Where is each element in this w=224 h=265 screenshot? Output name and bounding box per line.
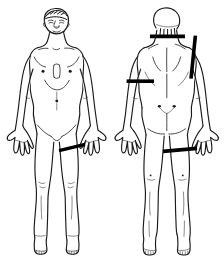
groin-outline xyxy=(51,136,62,140)
left-calf-line xyxy=(150,192,151,215)
suprasternal-notch xyxy=(53,48,60,49)
xiphoid-arc xyxy=(54,77,59,78)
posterior-head-group xyxy=(154,8,180,36)
body-diagram-panel: Human body anatomical outline diagram An… xyxy=(0,0,224,265)
sternum-left-line xyxy=(53,65,54,77)
right-calf-line xyxy=(183,192,184,215)
left-foot-outline xyxy=(34,238,47,254)
nape-hair-5 xyxy=(174,28,175,35)
back-left-leg-outer xyxy=(143,135,146,239)
right-knee-outline xyxy=(68,182,74,184)
back-left-hip-outline xyxy=(142,108,146,135)
left-scapula-line xyxy=(153,57,161,71)
left-nipple xyxy=(42,70,45,73)
back-right-hand-outline xyxy=(192,126,218,155)
anterior-torso-group xyxy=(29,48,83,110)
neck-right-outline xyxy=(64,32,76,47)
left-knee-outline xyxy=(39,182,45,184)
posterior-left-thigh-marker-bar xyxy=(163,148,197,151)
right-nipple xyxy=(69,70,72,73)
back-right-foot-outline xyxy=(177,234,190,255)
right-gluteal-fold xyxy=(169,129,186,134)
sacral-triangle xyxy=(159,107,174,113)
right-clavicle xyxy=(65,48,74,49)
anterior-figure-svg xyxy=(0,0,112,265)
sternum-right-line xyxy=(59,65,60,77)
right-hand-outline xyxy=(80,126,106,156)
right-popliteal-crease xyxy=(179,179,186,180)
right-ankle-crease xyxy=(68,236,78,237)
right-popliteal-dot xyxy=(182,175,184,177)
right-achilles-line xyxy=(184,221,185,238)
anterior-feet-group xyxy=(34,238,79,254)
anterior-body-figure xyxy=(0,0,112,265)
costal-margin xyxy=(45,80,70,90)
right-leg-inner-outline xyxy=(59,142,67,240)
posterior-neck-shoulders-group xyxy=(144,30,189,49)
anterior-pelvis-group xyxy=(33,107,80,140)
right-shin-line xyxy=(71,196,72,219)
nape-hair-1 xyxy=(160,29,161,36)
anterior-neck-shoulders-group xyxy=(37,32,75,49)
left-popliteal-crease xyxy=(147,179,154,180)
right-inguinal-crease xyxy=(62,125,76,136)
back-left-hand-outline xyxy=(115,126,141,155)
left-leg-outer-outline xyxy=(34,134,37,238)
left-ankle-crease xyxy=(35,236,45,237)
right-leg-outer-outline xyxy=(76,134,79,238)
sternum-top-arc xyxy=(54,64,59,65)
left-inguinal-crease xyxy=(37,125,51,136)
left-knee-cap xyxy=(40,187,45,188)
left-hand-outline xyxy=(7,126,33,156)
back-left-foot-outline xyxy=(143,234,156,255)
left-lat-line xyxy=(145,72,155,86)
posterior-pelvis-group xyxy=(142,108,192,135)
left-leg-inner-outline xyxy=(46,142,54,240)
left-achilles-line xyxy=(149,221,150,238)
navel xyxy=(55,100,58,103)
right-scapula-line xyxy=(173,57,181,71)
posterior-figure-svg xyxy=(112,0,224,265)
neck-left-outline xyxy=(37,33,49,48)
posterior-body-figure xyxy=(112,0,224,265)
right-foot-outline xyxy=(66,238,79,254)
back-right-hip-outline xyxy=(187,108,191,135)
left-gluteal-fold xyxy=(148,129,165,134)
anterior-legs-group xyxy=(34,134,79,240)
left-shin-line xyxy=(41,196,42,219)
left-popliteal-dot xyxy=(150,175,152,177)
left-clavicle xyxy=(39,48,48,49)
right-hip-outline xyxy=(76,107,80,134)
right-lat-line xyxy=(178,72,188,86)
anterior-head-group xyxy=(44,9,70,34)
left-hip-outline xyxy=(33,107,37,134)
posterior-feet-group xyxy=(143,234,190,255)
right-knee-cap xyxy=(68,187,73,188)
